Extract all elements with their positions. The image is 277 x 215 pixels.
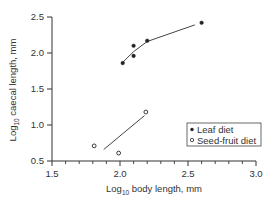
- seed-fruit-diet-point: [117, 151, 121, 155]
- y-tick-label: 2.0: [31, 47, 44, 58]
- scatter-chart: 1.52.02.53.00.51.01.52.02.5 Leaf diet Se…: [0, 0, 277, 215]
- leaf-diet-point: [132, 44, 136, 48]
- seed-fruit-diet-marker-icon: [190, 138, 193, 141]
- y-tick-label: 1.0: [31, 119, 44, 130]
- x-tick-label: 3.0: [249, 168, 262, 179]
- x-tick-label: 1.5: [45, 168, 58, 179]
- x-axis-title: Log10 body length, mm: [106, 183, 202, 196]
- fit-line: [104, 116, 145, 150]
- y-tick-label: 2.5: [31, 11, 44, 22]
- legend: Leaf diet Seed-fruit diet: [187, 123, 261, 146]
- leaf-diet-point: [121, 61, 125, 65]
- leaf-diet-point: [132, 54, 136, 58]
- y-tick-label: 0.5: [31, 155, 44, 166]
- legend-label-seed-fruit-diet: Seed-fruit diet: [197, 135, 257, 146]
- leaf-diet-point: [145, 39, 149, 43]
- y-axis-title: Log10 caecal length, mm: [7, 39, 20, 142]
- leaf-diet-point: [200, 21, 204, 25]
- axes: 1.52.02.53.00.51.01.52.02.5: [31, 11, 263, 179]
- fit-lines: [104, 25, 195, 150]
- legend-label-leaf-diet: Leaf diet: [197, 124, 234, 135]
- seed-fruit-diet-point: [92, 144, 96, 148]
- leaf-diet-marker-icon: [190, 128, 193, 131]
- y-tick-label: 1.5: [31, 83, 44, 94]
- seed-fruit-diet-point: [144, 110, 148, 114]
- x-tick-label: 2.5: [181, 168, 194, 179]
- x-tick-label: 2.0: [113, 168, 126, 179]
